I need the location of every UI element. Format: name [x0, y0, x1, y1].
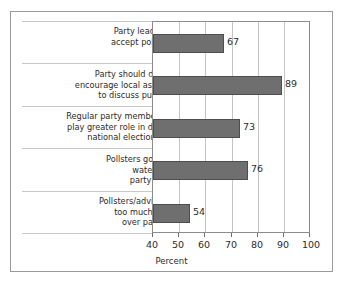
category-separator: [22, 21, 152, 22]
gridline-90: [284, 22, 285, 232]
x-tick-label: 70: [225, 240, 237, 250]
category-separator: [22, 106, 152, 107]
category-separator: [22, 191, 152, 192]
x-tick-mark: [283, 233, 284, 237]
x-tick-mark: [178, 233, 179, 237]
x-tick-mark: [204, 233, 205, 237]
x-tick-mark: [152, 233, 153, 237]
bar-value-label: 89: [285, 79, 297, 89]
bar: [153, 204, 190, 223]
category-separator: [22, 63, 152, 64]
x-tick-label: 60: [198, 240, 210, 250]
x-tick-label: 100: [302, 240, 320, 250]
x-tick-label: 40: [146, 240, 158, 250]
bar: [153, 161, 248, 180]
category-separator: [22, 148, 152, 149]
x-tick-label: 80: [251, 240, 263, 250]
bar-value-label: 76: [251, 164, 263, 174]
bar: [153, 34, 224, 53]
x-tick-mark: [309, 233, 310, 237]
bar-value-label: 54: [193, 207, 205, 217]
chart-figure: Party leader should accept policy set by…: [0, 0, 343, 283]
category-separator: [22, 233, 152, 234]
x-tick-label: 50: [172, 240, 184, 250]
bar: [153, 76, 282, 95]
x-tick-mark: [257, 233, 258, 237]
x-tick-label: 90: [277, 240, 289, 250]
x-axis-title: Percent: [0, 256, 343, 266]
gridline-80: [258, 22, 259, 232]
bar-value-label: 67: [227, 37, 239, 47]
plot-area: [152, 21, 310, 233]
bar: [153, 119, 240, 138]
x-tick-mark: [231, 233, 232, 237]
bar-value-label: 73: [243, 122, 255, 132]
